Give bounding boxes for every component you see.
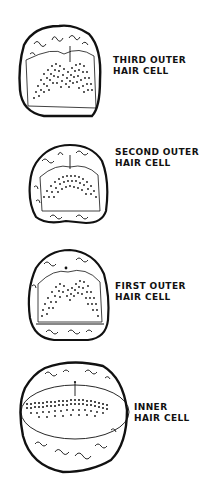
stereocilia-dots	[33, 63, 93, 99]
label-inner-hair-cell: INNER HAIR CELL	[134, 402, 190, 424]
stereocilia-dots	[26, 399, 108, 418]
label-first-outer-hair-cell: FIRST OUTER HAIR CELL	[115, 281, 186, 303]
panel-third-outer-hair-cell: THIRD OUTER HAIR CELL	[0, 0, 215, 125]
label-line-2: HAIR CELL	[113, 66, 186, 77]
panel-inner-hair-cell: INNER HAIR CELL	[0, 360, 215, 501]
panel-second-outer-hair-cell: SECOND OUTER HAIR CELL	[0, 125, 215, 240]
second-outer-hair-cell-drawing	[26, 141, 110, 227]
label-line-1: INNER	[134, 402, 190, 413]
stereocilia-dots	[41, 280, 99, 317]
label-second-outer-hair-cell: SECOND OUTER HAIR CELL	[115, 147, 199, 169]
stereocilia-dots	[43, 175, 97, 198]
first-outer-hair-cell-drawing	[24, 246, 112, 344]
label-line-2: HAIR CELL	[134, 413, 190, 424]
label-third-outer-hair-cell: THIRD OUTER HAIR CELL	[113, 55, 186, 77]
label-line-1: SECOND OUTER	[115, 147, 199, 158]
label-line-2: HAIR CELL	[115, 158, 199, 169]
inner-hair-cell-drawing	[15, 360, 130, 475]
third-outer-hair-cell-drawing	[14, 20, 106, 120]
label-line-1: THIRD OUTER	[113, 55, 186, 66]
label-line-2: HAIR CELL	[115, 292, 186, 303]
label-line-1: FIRST OUTER	[115, 281, 186, 292]
panel-first-outer-hair-cell: FIRST OUTER HAIR CELL	[0, 240, 215, 360]
